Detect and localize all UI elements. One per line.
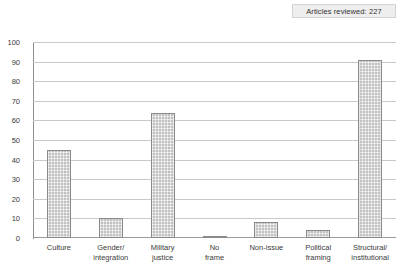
x-axis-label-1: Gender/integration	[85, 243, 137, 263]
y-tick-label-100: 100	[0, 38, 20, 47]
gridline-50	[33, 140, 396, 141]
gridline-30	[33, 179, 396, 180]
x-axis-label-2-line2: justice	[137, 253, 189, 263]
y-tick-label-40: 40	[0, 155, 20, 164]
y-tick-label-20: 20	[0, 194, 20, 203]
gridline-90	[33, 62, 396, 63]
y-tick-label-50: 50	[0, 136, 20, 145]
x-axis-label-5-line2: framing	[292, 253, 344, 263]
x-axis-label-4-line1: Non-issue	[249, 243, 283, 252]
y-tick-label-80: 80	[0, 77, 20, 86]
x-axis-label-2-line1: Military	[151, 243, 175, 252]
x-axis-label-5-line1: Political	[305, 243, 331, 252]
x-axis-label-0-line1: Culture	[47, 243, 71, 252]
x-axis-label-2: Militaryjustice	[137, 243, 189, 263]
x-axis-label-6-line1: Structural/	[353, 243, 387, 252]
gridline-40	[33, 160, 396, 161]
y-tick-label-90: 90	[0, 57, 20, 66]
x-axis-label-3-line1: No	[210, 243, 220, 252]
x-axis-label-6: Structural/institutional	[344, 243, 396, 263]
gridline-100	[33, 42, 396, 43]
y-tick-label-30: 30	[0, 175, 20, 184]
gridline-70	[33, 101, 396, 102]
gridline-10	[33, 218, 396, 219]
x-axis-label-1-line1: Gender/	[97, 243, 124, 252]
bar-6	[358, 60, 382, 238]
chart-plot-area: 0102030405060708090100	[33, 42, 396, 238]
gridline-80	[33, 81, 396, 82]
x-axis-label-5: Politicalframing	[292, 243, 344, 263]
y-tick-label-10: 10	[0, 214, 20, 223]
y-tick-label-60: 60	[0, 116, 20, 125]
bar-1	[99, 218, 123, 238]
x-axis-label-3: Noframe	[189, 243, 241, 263]
x-axis-label-3-line2: frame	[189, 253, 241, 263]
bar-4	[254, 222, 278, 238]
y-tick-label-70: 70	[0, 96, 20, 105]
y-tick-label-0: 0	[0, 234, 20, 243]
bar-3	[203, 236, 227, 238]
x-axis-label-0: Culture	[33, 243, 85, 253]
bar-5	[306, 230, 330, 238]
bar-2	[151, 113, 175, 238]
x-axis-label-1-line2: integration	[85, 253, 137, 263]
x-axis-label-6-line2: institutional	[344, 253, 396, 263]
gridline-60	[33, 120, 396, 121]
x-axis-label-4: Non-issue	[240, 243, 292, 253]
articles-reviewed-label: Articles reviewed: 227	[306, 7, 382, 16]
articles-reviewed-badge: Articles reviewed: 227	[292, 4, 396, 18]
gridline-20	[33, 199, 396, 200]
bar-0	[47, 150, 71, 238]
